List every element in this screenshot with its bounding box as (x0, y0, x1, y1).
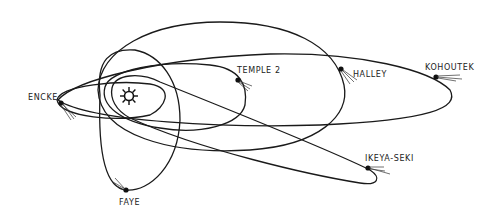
comet-encke: ENCKE (28, 93, 76, 120)
orbit-halley (98, 22, 345, 151)
comet-temple2: TEMPLE 2 (235, 66, 280, 91)
label-temple2: TEMPLE 2 (236, 66, 281, 75)
orbit-ikeya-seki (112, 76, 377, 184)
orbit-kohoutek (58, 54, 452, 126)
label-halley: HALLEY (353, 70, 387, 79)
comet-faye: FAYE (113, 178, 140, 207)
comet-halley: HALLEY (338, 66, 387, 84)
comet-orbit-diagram: ENCKE TEMPLE 2 HALLEY KOHOUTEK IKEYA-SEK… (0, 0, 500, 217)
sun-icon (120, 87, 138, 105)
orbit-encke (57, 83, 165, 119)
label-faye: FAYE (119, 198, 140, 207)
label-kohoutek: KOHOUTEK (425, 63, 474, 72)
label-ikeya-seki: IKEYA-SEKI (365, 154, 414, 163)
label-encke: ENCKE (28, 93, 58, 102)
